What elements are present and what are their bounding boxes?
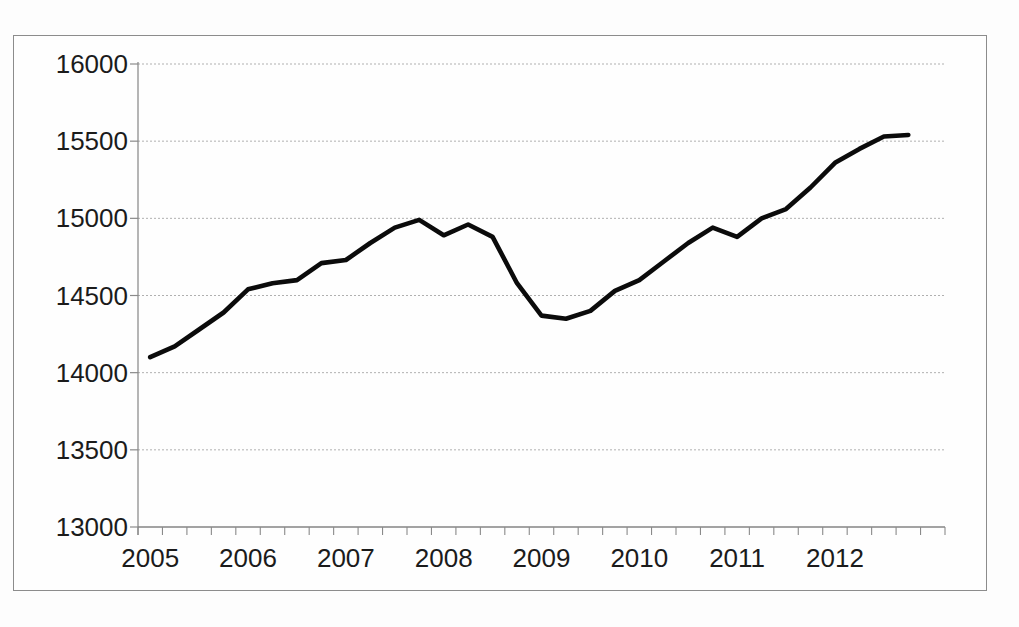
x-axis-tick-label-2007: 2007 bbox=[301, 543, 391, 573]
y-axis-tick-label-13000: 13000 bbox=[44, 512, 128, 542]
x-axis-tick-label-2005: 2005 bbox=[105, 543, 195, 573]
y-axis-tick-label-14000: 14000 bbox=[44, 358, 128, 388]
y-axis-tick-label-16000: 16000 bbox=[44, 49, 128, 79]
y-axis-tick-label-14500: 14500 bbox=[44, 281, 128, 311]
plot-area bbox=[0, 0, 1019, 627]
x-axis-tick-label-2010: 2010 bbox=[594, 543, 684, 573]
y-axis-tick-label-15000: 15000 bbox=[44, 203, 128, 233]
x-axis-tick-label-2012: 2012 bbox=[790, 543, 880, 573]
x-axis-tick-label-2008: 2008 bbox=[399, 543, 489, 573]
series-line-quarterly-series bbox=[150, 135, 908, 357]
x-axis-tick-label-2011: 2011 bbox=[692, 543, 782, 573]
x-axis-tick-label-2009: 2009 bbox=[497, 543, 587, 573]
y-axis-tick-label-15500: 15500 bbox=[44, 126, 128, 156]
y-axis-tick-label-13500: 13500 bbox=[44, 435, 128, 465]
x-axis-tick-label-2006: 2006 bbox=[203, 543, 293, 573]
